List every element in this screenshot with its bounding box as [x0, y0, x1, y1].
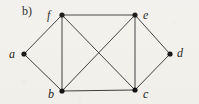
vertex-label-a: a — [9, 48, 15, 60]
vertex-label-b: b — [48, 88, 54, 100]
edge-layer — [24, 15, 170, 91]
graph-edge-b-c — [62, 90, 135, 91]
vertex-label-d: d — [177, 47, 183, 59]
vertex-layer — [21, 12, 172, 93]
vertex-label-f: f — [47, 9, 50, 21]
vertex-label-c: c — [143, 88, 148, 100]
part-label: b) — [22, 5, 32, 17]
graph-edge-a-b — [24, 54, 62, 91]
graph-edge-e-d — [135, 15, 170, 54]
graph-vertex-e[interactable] — [132, 12, 137, 17]
vertex-label-e: e — [143, 9, 148, 21]
graph-vertex-b[interactable] — [59, 88, 64, 93]
graph-figure: b) abcdef — [0, 0, 199, 104]
graph-vertex-f[interactable] — [59, 12, 64, 17]
graph-edge-c-d — [135, 54, 170, 90]
graph-edge-a-f — [24, 15, 62, 54]
graph-vertex-a[interactable] — [21, 51, 26, 56]
graph-vertex-c[interactable] — [132, 87, 137, 92]
graph-vertex-d[interactable] — [167, 51, 172, 56]
